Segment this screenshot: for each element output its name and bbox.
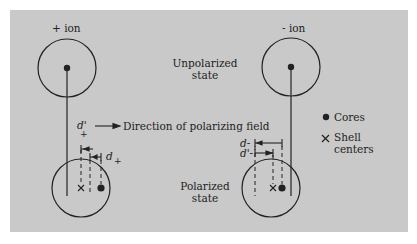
legend-cores-label: Cores <box>334 111 365 123</box>
minus-ion-core-unpolarized <box>288 64 294 70</box>
legend-shell-centers-label: Shell centers <box>334 131 374 155</box>
minus-ion-label: - ion <box>282 22 305 34</box>
d-prime-minus-label: d'- <box>240 147 253 159</box>
direction-of-field-label: Direction of polarizing field <box>123 120 269 132</box>
plus-ion-core-unpolarized <box>64 65 70 71</box>
plus-ion-core-polarized <box>97 184 104 191</box>
legend-shell-symbol <box>322 135 329 142</box>
d-plus-label: d <box>106 150 113 162</box>
minus-ion-core-polarized <box>278 184 285 191</box>
plus-ion-label: + ion <box>52 22 81 34</box>
unpolarized-state-label: Unpolarized state <box>150 57 260 81</box>
polarized-state-label: Polarized state <box>150 180 260 204</box>
legend-core-symbol <box>323 114 329 120</box>
